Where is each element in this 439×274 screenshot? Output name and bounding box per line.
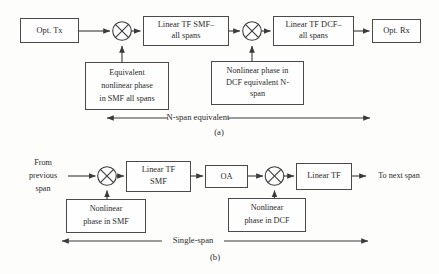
block-nonlinear-phase-dcf-nspan-line-3: span — [250, 89, 265, 98]
block-nonlinear-phase-dcf-nspan-line-1: Nonlinear phase in — [227, 66, 289, 75]
label-from-previous-span-line-3: span — [35, 184, 50, 193]
block-linear-tf-smf-line-1: Linear TF — [142, 165, 176, 174]
label-from-previous-span-line-2: previous — [29, 171, 57, 180]
block-linear-tf-smf-all-spans-line-1: Linear TF SMF– — [158, 20, 215, 29]
block-nonlinear-phase-dcf-nspan: Nonlinear phase in DCF equivalent N- spa… — [212, 62, 304, 105]
span-label-single-span: Single-span — [173, 235, 214, 245]
block-linear-tf-smf-all-spans: Linear TF SMF– all spans — [144, 17, 229, 46]
block-nonlinear-phase-smf-line-1: Nonlinear — [90, 204, 123, 213]
span-indicator-n-span-equivalent: N-span equivalent — [107, 112, 370, 122]
block-linear-tf-line-1: Linear TF — [307, 171, 341, 180]
block-linear-tf-smf-all-spans-line-2: all spans — [171, 31, 200, 40]
block-equivalent-nonlinear-phase-smf-line-1: Equivalent — [109, 68, 145, 77]
operator-mixer-3 — [98, 167, 117, 186]
label-from-previous-span-line-1: From — [34, 158, 52, 167]
caption-a: (a) — [214, 127, 224, 137]
span-label-n-span-equivalent: N-span equivalent — [167, 112, 230, 122]
figure-canvas: Opt. Tx Linear TF SMF– all spans Linear … — [0, 0, 439, 274]
block-oa-line-1: OA — [220, 172, 232, 181]
block-nonlinear-phase-smf: Nonlinear phase in SMF — [67, 200, 146, 233]
block-linear-tf-smf-line-2: SMF — [150, 177, 167, 186]
block-nonlinear-phase-dcf: Nonlinear phase in DCF — [229, 199, 306, 232]
block-linear-tf-dcf-all-spans: Linear TF DCF– all spans — [274, 17, 354, 46]
operator-mixer-2 — [243, 22, 262, 41]
block-nonlinear-phase-dcf-nspan-line-2: DCF equivalent N- — [226, 78, 289, 87]
block-linear-tf: Linear TF — [297, 164, 352, 190]
block-nonlinear-phase-dcf-line-2: phase in DCF — [244, 216, 289, 225]
block-equivalent-nonlinear-phase-smf-line-2: nonlinear phase — [101, 81, 153, 90]
block-equivalent-nonlinear-phase-smf: Equivalent nonlinear phase in SMF all sp… — [86, 63, 169, 110]
label-to-next-span: To next span — [378, 171, 420, 180]
span-indicator-single-span: Single-span — [62, 235, 368, 245]
operator-mixer-4 — [265, 167, 284, 186]
block-linear-tf-dcf-all-spans-line-1: Linear TF DCF– — [285, 20, 342, 29]
block-nonlinear-phase-dcf-line-1: Nonlinear — [251, 203, 284, 212]
block-equivalent-nonlinear-phase-smf-line-3: in SMF all spans — [99, 94, 154, 103]
label-from-previous-span: From previous span — [29, 158, 57, 193]
block-opt-tx: Opt. Tx — [21, 19, 79, 43]
block-opt-rx-line-1: Opt. Rx — [383, 26, 410, 35]
block-opt-rx: Opt. Rx — [373, 20, 421, 43]
operator-mixer-1 — [113, 22, 132, 41]
block-linear-tf-dcf-all-spans-line-2: all spans — [299, 31, 328, 40]
caption-b: (b) — [210, 252, 220, 262]
block-oa: OA — [206, 166, 248, 188]
block-opt-tx-line-1: Opt. Tx — [37, 26, 64, 35]
block-nonlinear-phase-smf-line-2: phase in SMF — [83, 217, 129, 226]
block-linear-tf-smf: Linear TF SMF — [127, 162, 191, 192]
